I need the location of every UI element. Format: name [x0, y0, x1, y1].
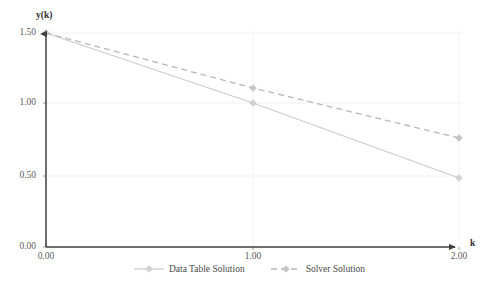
chart-plot-area [0, 0, 499, 287]
y-tick-label-100: 1.00 [8, 97, 36, 107]
x-tick-label-200: 2.00 [439, 251, 479, 261]
y-axis-title: y(k) [36, 10, 52, 20]
x-tick-label-000: 0.00 [26, 251, 66, 261]
axis-lines [46, 34, 455, 247]
y-tick-label-000: 0.00 [8, 241, 36, 251]
legend-label-solver-solution: Solver Solution [306, 264, 365, 274]
x-axis-title: k [470, 238, 475, 248]
gridlines-vertical [253, 31, 459, 247]
chart-legend: Data Table Solution Solver Solution [0, 264, 499, 274]
y-tick-label-150: 1.50 [8, 27, 36, 37]
legend-key-solid-icon [134, 264, 164, 274]
legend-label-data-table-solution: Data Table Solution [169, 264, 245, 274]
x-tick-label-100: 1.00 [233, 251, 273, 261]
chart-container: y(k) k 1.50 1.00 0.50 0.00 0.00 1.00 2.0… [0, 0, 499, 287]
legend-key-dashed-icon [271, 264, 301, 274]
series-solver-solution [43, 30, 463, 142]
y-tick-label-050: 0.50 [8, 170, 36, 180]
series-data-table-solution [43, 30, 463, 182]
legend-item-solver-solution[interactable]: Solver Solution [271, 264, 365, 274]
legend-item-data-table-solution[interactable]: Data Table Solution [134, 264, 245, 274]
